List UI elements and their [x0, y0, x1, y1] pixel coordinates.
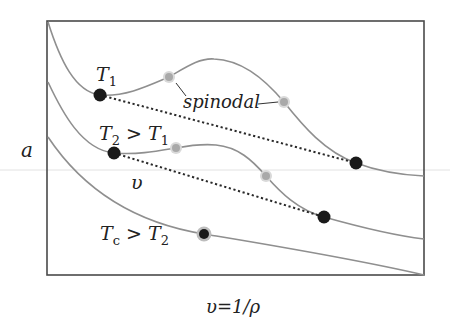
- binodal-point-t1-right: [350, 157, 363, 170]
- x-axis-label: υ=1/ρ: [206, 296, 261, 317]
- spinodal-leader-right: [258, 102, 278, 104]
- isotherm-tc-curve: [48, 137, 424, 275]
- spinodal-label: spinodal: [183, 91, 260, 112]
- spinodal-point-t1-right: [280, 98, 288, 106]
- isotherm-t2-label: T2 > T1: [99, 122, 169, 148]
- common-tangent-t2: [114, 153, 324, 217]
- inner-volume-label: υ: [131, 171, 143, 193]
- binodal-point-t1-left: [94, 89, 107, 102]
- binodal-point-t2-left: [108, 147, 121, 160]
- binodal-point-t2-right: [318, 211, 331, 224]
- free-energy-diagram: T1 T2 > T1 Tc > T2 spinodal υ a υ=1/ρ: [0, 0, 450, 334]
- isotherm-t1-label: T1: [96, 63, 117, 89]
- critical-point: [199, 229, 209, 239]
- spinodal-point-t1-left: [165, 73, 173, 81]
- isotherm-tc-label: Tc > T2: [100, 222, 169, 248]
- spinodal-point-t2-right: [262, 172, 270, 180]
- y-axis-label: a: [21, 138, 33, 162]
- spinodal-point-t2-left: [172, 144, 180, 152]
